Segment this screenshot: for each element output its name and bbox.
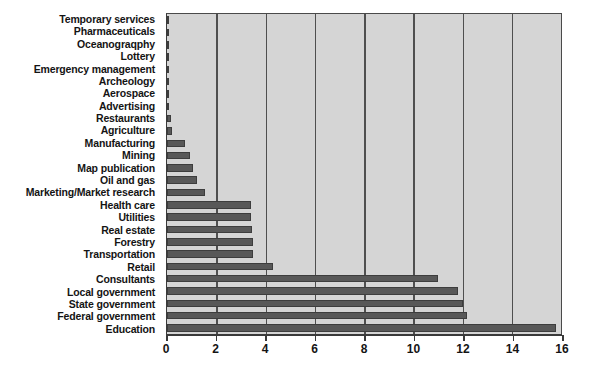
bar-row [167,223,561,235]
bar [167,275,438,283]
x-tick-label: 4 [262,343,269,355]
category-label: Advertising [0,100,160,112]
category-label: Real estate [0,224,160,236]
category-label: Archeology [0,75,160,87]
x-tick-mark [463,335,465,341]
x-tick-label: 14 [506,343,519,355]
bar [167,201,251,209]
bar-row [167,236,561,248]
x-tick-mark [216,335,218,341]
bar-row [167,211,561,223]
x-tick-mark [364,335,366,341]
bar-row [167,186,561,198]
bar-row [167,260,561,272]
category-label: Pharmaceuticals [0,25,160,37]
category-label: Transportation [0,248,160,260]
bar-row [167,39,561,51]
category-label: Local government [0,286,160,298]
bar-row [167,76,561,88]
category-label: Temporary services [0,13,160,25]
category-label: Retail [0,261,160,273]
bar [167,263,273,271]
bar [167,287,458,295]
category-label: Marketing/Market research [0,186,160,198]
category-label: Map publication [0,162,160,174]
bar [167,90,169,98]
bar-row [167,63,561,75]
x-tick-label: 16 [555,343,568,355]
category-label: Emergency management [0,63,160,75]
bar-row [167,51,561,63]
bar [167,189,205,197]
bar [167,300,463,308]
category-label: Federal government [0,310,160,322]
bar [167,78,169,86]
category-label: State government [0,298,160,310]
bar-row [167,113,561,125]
bar-row [167,125,561,137]
x-tick-mark [513,335,515,341]
category-label: Mining [0,149,160,161]
bar [167,164,193,172]
bar-row [167,26,561,38]
bar-row [167,199,561,211]
x-tick-label: 12 [456,343,469,355]
bar-row [167,285,561,297]
bar-row [167,273,561,285]
category-label: Health care [0,199,160,211]
bar-row [167,248,561,260]
bar-row [167,322,561,334]
bar [167,250,253,258]
bar [167,312,467,320]
category-label: Consultants [0,273,160,285]
bar-series [167,14,561,334]
plot-area [166,13,562,335]
bar [167,226,252,234]
bar-row [167,310,561,322]
bar-row [167,149,561,161]
bar-chart: Temporary servicesPharmaceuticalsOceanog… [0,0,592,380]
bar [167,16,169,24]
category-label: Agriculture [0,125,160,137]
x-tick-label: 8 [361,343,368,355]
bar [167,213,251,221]
bar-row [167,14,561,26]
category-label: Utilities [0,211,160,223]
bar [167,238,253,246]
x-tick-mark [562,335,564,341]
bar-row [167,297,561,309]
category-label: Lottery [0,50,160,62]
category-label: Oceanograqphy [0,38,160,50]
bar-row [167,100,561,112]
category-label: Manufacturing [0,137,160,149]
bar-row [167,174,561,186]
category-label: Restaurants [0,112,160,124]
x-tick-mark [166,335,168,341]
bar [167,324,556,332]
x-tick-label: 2 [212,343,219,355]
bar [167,103,169,111]
x-tick-mark [265,335,267,341]
category-label: Aerospace [0,87,160,99]
bar [167,176,197,184]
bar-row [167,162,561,174]
bar [167,41,169,49]
bar [167,29,169,37]
bar [167,127,172,135]
bar [167,152,190,160]
x-tick-label: 0 [163,343,170,355]
x-tick-label: 6 [311,343,318,355]
category-label: Forestry [0,236,160,248]
bar [167,140,185,148]
x-tick-mark [315,335,317,341]
bar [167,115,171,123]
category-label: Education [0,323,160,335]
bar [167,53,169,61]
x-tick-label: 10 [407,343,420,355]
bar-row [167,88,561,100]
bar [167,66,169,74]
category-axis-labels: Temporary servicesPharmaceuticalsOceanog… [0,13,160,335]
x-tick-mark [414,335,416,341]
bar-row [167,137,561,149]
category-label: Oil and gas [0,174,160,186]
